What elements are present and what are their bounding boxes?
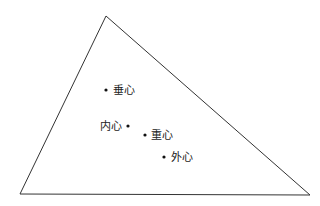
circumcenter-dot <box>162 155 165 158</box>
orthocenter-dot <box>104 88 107 91</box>
centroid-label: 重心 <box>151 128 173 142</box>
triangle <box>20 16 310 195</box>
incenter-dot <box>126 124 129 127</box>
incenter-label: 内心 <box>100 119 122 133</box>
point-orthocenter: 垂心 <box>104 84 135 97</box>
point-incenter: 内心 <box>100 119 130 133</box>
point-circumcenter: 外心 <box>162 151 193 164</box>
centroid-dot <box>143 133 146 136</box>
circumcenter-label: 外心 <box>171 151 193 164</box>
orthocenter-label: 垂心 <box>113 84 135 97</box>
point-centroid: 重心 <box>143 128 173 142</box>
triangle-centers-diagram: 垂心内心重心外心 <box>0 0 320 206</box>
